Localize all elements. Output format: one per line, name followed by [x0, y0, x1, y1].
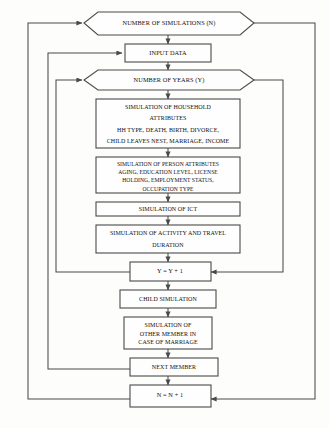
activity-travel-shape [96, 225, 240, 253]
flowchart-diagram: NUMBER OF SIMULATIONS (N) INPUT DATA NUM… [0, 0, 329, 428]
person-attributes-line-3: HOLDING, EMPLOYMENT STATUS, [122, 177, 214, 183]
node-year-increment[interactable]: Y = Y + 1 [130, 262, 211, 281]
input-data-label: INPUT DATA [149, 49, 187, 56]
simulation-increment-label: N = N + 1 [157, 391, 184, 398]
person-attributes-line-2: AGING, EDUCATION LEVEL, LICENSE [118, 169, 218, 175]
node-simulation-increment[interactable]: N = N + 1 [130, 385, 211, 407]
household-attributes-line-4: CHILD LEAVES NEST, MARRIAGE, INCOME [107, 138, 230, 144]
next-member-label: NEXT MEMBER [152, 364, 196, 370]
ict-label: SIMULATION OF ICT [139, 206, 198, 212]
node-simulation-of-person-attributes[interactable]: SIMULATION OF PERSON ATTRIBUTES AGING, E… [96, 157, 240, 193]
node-number-of-years[interactable]: NUMBER OF YEARS (Y) [84, 70, 254, 90]
activity-travel-line-2: DURATION [152, 242, 184, 248]
number-of-simulations-label: NUMBER OF SIMULATIONS (N) [123, 19, 216, 27]
activity-travel-line-1: SIMULATION OF ACTIVITY AND TRAVEL [110, 230, 226, 236]
year-increment-label: Y = Y + 1 [157, 267, 183, 274]
node-simulation-of-ict[interactable]: SIMULATION OF ICT [96, 202, 240, 216]
child-simulation-label: CHILD SIMULATION [139, 296, 197, 302]
household-attributes-line-2: ATTRIBUTES [150, 115, 187, 121]
person-attributes-line-1: SIMULATION OF PERSON ATTRIBUTES [117, 161, 219, 167]
node-simulation-of-activity-and-travel-duration[interactable]: SIMULATION OF ACTIVITY AND TRAVEL DURATI… [96, 225, 240, 253]
node-simulation-of-household-attributes[interactable]: SIMULATION OF HOUSEHOLD ATTRIBUTES HH TY… [96, 99, 240, 148]
node-child-simulation[interactable]: CHILD SIMULATION [120, 290, 216, 308]
other-member-line-3: CASE OF MARRIAGE [138, 339, 198, 345]
person-attributes-line-4: OCCUPATION TYPE [142, 186, 194, 192]
other-member-line-1: SIMULATION OF [145, 322, 192, 328]
other-member-line-2: OTHER MEMBER IN [140, 331, 197, 337]
node-number-of-simulations[interactable]: NUMBER OF SIMULATIONS (N) [84, 12, 254, 35]
node-simulation-of-other-member[interactable]: SIMULATION OF OTHER MEMBER IN CASE OF MA… [124, 317, 212, 349]
node-input-data[interactable]: INPUT DATA [125, 44, 211, 62]
household-attributes-line-1: SIMULATION OF HOUSEHOLD [125, 104, 211, 110]
household-attributes-line-3: HH TYPE, DEATH, BIRTH, DIVORCE, [117, 127, 219, 133]
number-of-years-label: NUMBER OF YEARS (Y) [134, 76, 205, 84]
flowchart-canvas: NUMBER OF SIMULATIONS (N) INPUT DATA NUM… [0, 0, 329, 428]
node-next-member[interactable]: NEXT MEMBER [130, 358, 218, 376]
